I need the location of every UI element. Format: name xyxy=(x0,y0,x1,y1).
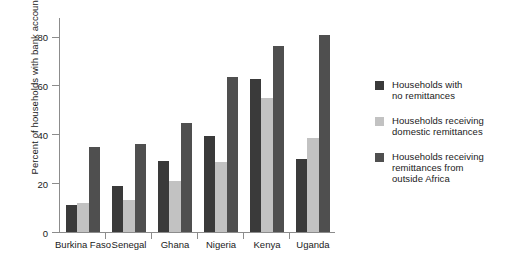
bar[interactable] xyxy=(227,77,238,232)
x-tick xyxy=(289,233,290,239)
x-axis-label-uganda: Uganda xyxy=(296,239,329,250)
legend-swatch-no-remittances xyxy=(375,81,384,90)
y-tick-label-40: 40 xyxy=(37,129,48,140)
legend-label-line-2: remittances from xyxy=(392,162,506,173)
y-tick-40: 40 xyxy=(52,134,59,135)
legend-swatch-domestic-remittances xyxy=(375,117,384,126)
y-tick-label-0: 0 xyxy=(43,227,48,238)
legend-label-line-3: outside Africa xyxy=(392,173,506,184)
bar[interactable] xyxy=(66,205,77,232)
plot-area: 020406080 xyxy=(59,18,335,233)
bar[interactable] xyxy=(273,46,284,232)
bar-group xyxy=(204,18,239,232)
bars-layer xyxy=(60,18,335,232)
bar[interactable] xyxy=(261,98,272,232)
bar[interactable] xyxy=(307,138,318,232)
bar[interactable] xyxy=(89,147,100,233)
chart-legend: Households with no remittances Household… xyxy=(375,79,506,198)
bar-group xyxy=(112,18,147,232)
legend-label-line-2: domestic remittances xyxy=(392,126,506,137)
bar[interactable] xyxy=(112,186,123,232)
bar[interactable] xyxy=(204,136,215,233)
y-tick-label-60: 60 xyxy=(37,80,48,91)
legend-label-line-1: Households receiving xyxy=(392,115,506,126)
bar[interactable] xyxy=(181,123,192,232)
legend-label-line-1: Households receiving xyxy=(392,151,506,162)
x-axis-label-burkina-faso: Burkina Faso xyxy=(55,239,111,250)
legend-label-line-1: Households with xyxy=(392,79,506,90)
legend-label-line-2: no remittances xyxy=(392,90,506,101)
x-tick xyxy=(243,233,244,239)
y-tick-60: 60 xyxy=(52,85,59,86)
y-tick-20: 20 xyxy=(52,183,59,184)
bar[interactable] xyxy=(319,35,330,232)
bar[interactable] xyxy=(250,79,261,232)
x-axis-label-kenya: Kenya xyxy=(254,239,281,250)
x-tick xyxy=(151,233,152,239)
bar-group xyxy=(250,18,285,232)
bar[interactable] xyxy=(215,162,226,232)
y-tick-0: 0 xyxy=(52,232,59,233)
x-axis-label-nigeria: Nigeria xyxy=(206,239,236,250)
y-tick-80: 80 xyxy=(52,37,59,38)
x-axis-label-senegal: Senegal xyxy=(112,239,147,250)
legend-item-domestic-remittances[interactable]: Households receiving domestic remittance… xyxy=(375,115,506,138)
bar[interactable] xyxy=(135,144,146,232)
bar-group xyxy=(158,18,193,232)
legend-item-outside-africa-remittances[interactable]: Households receiving remittances from ou… xyxy=(375,151,506,185)
bar-group xyxy=(296,18,331,232)
bar[interactable] xyxy=(158,161,169,232)
bar-group xyxy=(66,18,101,232)
legend-item-no-remittances[interactable]: Households with no remittances xyxy=(375,79,506,102)
y-tick-label-80: 80 xyxy=(37,32,48,43)
legend-swatch-outside-africa-remittances xyxy=(375,153,384,162)
y-tick-label-20: 20 xyxy=(37,178,48,189)
bar[interactable] xyxy=(169,181,180,232)
x-axis-label-ghana: Ghana xyxy=(161,239,190,250)
x-tick xyxy=(197,233,198,239)
bar[interactable] xyxy=(123,200,134,232)
bar[interactable] xyxy=(296,159,307,232)
bar-chart-figure: Percent of households with bank accounts… xyxy=(0,0,506,263)
bar[interactable] xyxy=(77,203,88,232)
